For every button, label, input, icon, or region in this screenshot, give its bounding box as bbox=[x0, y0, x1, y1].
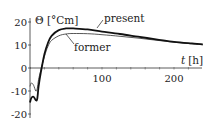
y-tick-label: -10 bbox=[11, 86, 27, 97]
x-tick-label: 100 bbox=[92, 73, 111, 84]
x-axis-label: t[h] bbox=[181, 54, 203, 66]
former-leader-line bbox=[66, 34, 74, 44]
present-annotation: present bbox=[104, 12, 145, 24]
y-tick-label: -20 bbox=[11, 109, 27, 120]
y-tick-label: 20 bbox=[14, 17, 27, 28]
x-tick-label: 200 bbox=[164, 73, 183, 84]
former-annotation: former bbox=[74, 41, 111, 53]
series-present-line bbox=[30, 28, 203, 102]
present-leader-line bbox=[97, 20, 103, 28]
y-axis-label: Θ [°Cm] bbox=[35, 14, 78, 26]
y-tick-label: 10 bbox=[14, 40, 27, 51]
y-tick-label: 0 bbox=[21, 63, 27, 74]
line-chart: 20 10 0 -10 -20 100 200 Θ [°Cm] t[h] pre… bbox=[0, 0, 218, 128]
